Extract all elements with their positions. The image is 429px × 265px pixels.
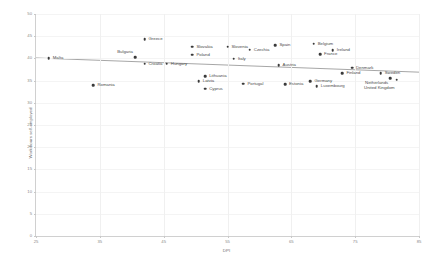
data-point-label: Poland: [196, 53, 209, 57]
data-point[interactable]: [92, 84, 95, 87]
data-point[interactable]: [312, 42, 315, 45]
y-axis-tick-mark: [34, 147, 36, 148]
x-axis-tick-mark: [228, 236, 229, 238]
y-axis-tick-label: 35: [27, 78, 32, 82]
data-point-label: Estonia: [289, 82, 303, 86]
data-point[interactable]: [249, 48, 252, 51]
y-axis-tick-mark: [34, 14, 36, 15]
data-point-label: Ireland: [337, 48, 350, 52]
data-point[interactable]: [379, 72, 382, 75]
x-axis-tick-mark: [100, 236, 101, 238]
data-point[interactable]: [274, 44, 277, 47]
data-point[interactable]: [316, 85, 319, 88]
data-point-label: Slovenia: [232, 45, 248, 49]
x-axis-tick-label: 55: [225, 240, 230, 244]
y-axis-tick-label: 0: [30, 234, 32, 238]
data-point-label: United Kingdom: [364, 86, 395, 90]
gridline-vertical: [164, 14, 165, 236]
data-point[interactable]: [309, 80, 312, 83]
data-point[interactable]: [242, 82, 245, 85]
data-point[interactable]: [47, 57, 50, 60]
y-axis-tick-mark: [34, 81, 36, 82]
data-point-label: Austria: [283, 63, 296, 67]
data-point[interactable]: [284, 83, 287, 86]
data-point-label: Latvia: [203, 79, 214, 83]
x-axis-tick-mark: [355, 236, 356, 238]
y-axis-tick-label: 5: [30, 212, 32, 216]
data-point[interactable]: [204, 75, 207, 78]
y-axis-tick-mark: [34, 103, 36, 104]
x-axis-tick-label: 75: [353, 240, 358, 244]
data-point[interactable]: [226, 46, 229, 49]
x-axis-tick-label: 85: [417, 240, 422, 244]
scatter-chart: Work hours self-employed 051015202530354…: [0, 0, 429, 265]
data-point[interactable]: [389, 77, 392, 80]
x-axis-tick-label: 25: [34, 240, 39, 244]
y-axis-tick-label: 20: [27, 145, 32, 149]
data-point[interactable]: [233, 58, 236, 61]
y-axis-tick-label: 10: [27, 189, 32, 193]
x-axis-tick-mark: [419, 236, 420, 238]
y-axis-title: Work hours self-employed: [29, 107, 33, 158]
y-axis-tick-mark: [34, 58, 36, 59]
data-point-label: France: [324, 52, 337, 56]
y-axis-tick-label: 50: [27, 12, 32, 16]
gridline-vertical: [291, 14, 292, 236]
y-axis-tick-label: 45: [27, 34, 32, 38]
data-point[interactable]: [143, 62, 146, 65]
x-axis-tick-mark: [164, 236, 165, 238]
data-point-label: Portugal: [247, 82, 263, 86]
data-point-label: Belgium: [318, 42, 334, 46]
y-axis-tick-mark: [34, 125, 36, 126]
data-point-label: Slovakia: [196, 45, 212, 49]
x-axis-tick-label: 45: [161, 240, 166, 244]
gridline-vertical: [355, 14, 356, 236]
data-point-label: Romania: [97, 83, 114, 87]
plot-area: 0510152025303540455025354555657585MaltaR…: [35, 14, 419, 237]
data-point-label: Spain: [279, 43, 290, 47]
x-axis-tick-mark: [291, 236, 292, 238]
data-point[interactable]: [351, 66, 354, 69]
data-point[interactable]: [143, 38, 146, 41]
data-point-label: Denmark: [356, 66, 373, 70]
data-point-label: Luxembourg: [321, 84, 345, 88]
data-point-label: Hungary: [171, 62, 187, 66]
data-point-label: Croatia: [149, 62, 163, 66]
y-axis-tick-mark: [34, 36, 36, 37]
gridline-vertical: [419, 14, 420, 236]
data-point-label: Sweden: [385, 71, 401, 75]
data-point-label: Bulgaria: [117, 50, 133, 54]
data-point-label: Greece: [149, 37, 163, 41]
data-point[interactable]: [191, 46, 194, 49]
y-axis-tick-mark: [34, 169, 36, 170]
data-point[interactable]: [395, 78, 398, 81]
y-axis-tick-mark: [34, 192, 36, 193]
x-axis-tick-label: 35: [97, 240, 102, 244]
gridline-vertical: [100, 14, 101, 236]
data-point[interactable]: [204, 87, 207, 90]
data-point-label: Malta: [53, 56, 64, 60]
y-axis-tick-label: 30: [27, 101, 32, 105]
x-axis-tick-mark: [36, 236, 37, 238]
data-point[interactable]: [134, 56, 137, 59]
x-axis-tick-label: 65: [289, 240, 294, 244]
data-point-label: Finland: [346, 71, 360, 75]
data-point[interactable]: [277, 64, 280, 67]
x-axis-title: DPI: [35, 249, 418, 253]
data-point[interactable]: [319, 53, 322, 56]
data-point[interactable]: [166, 62, 169, 65]
y-axis-tick-label: 15: [27, 167, 32, 171]
y-axis-tick-label: 25: [27, 123, 32, 127]
data-point[interactable]: [197, 80, 200, 83]
y-axis-tick-label: 40: [27, 56, 32, 60]
data-point[interactable]: [191, 54, 194, 57]
data-point-label: Czechia: [254, 47, 270, 51]
data-point-label: Cyprus: [209, 86, 223, 90]
data-point-label: Italy: [238, 57, 246, 61]
y-axis-tick-mark: [34, 214, 36, 215]
data-point[interactable]: [341, 72, 344, 75]
